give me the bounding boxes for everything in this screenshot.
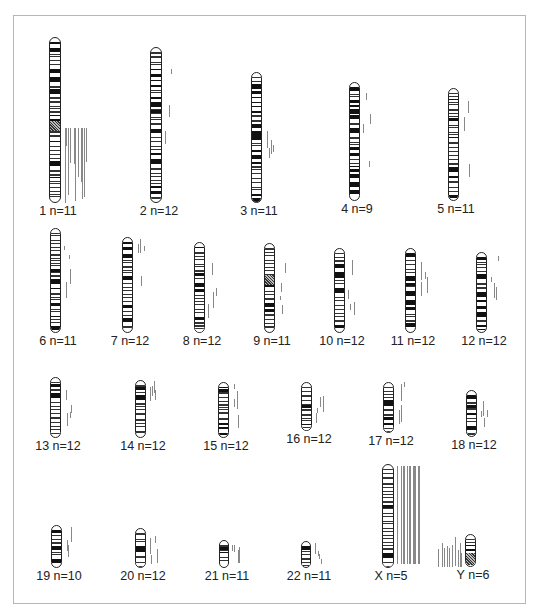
mapping-tick (69, 255, 70, 259)
chromosome-label: 18 n=12 (451, 438, 497, 452)
chromosome-band (335, 288, 344, 293)
chromosome-band (51, 254, 60, 256)
chromosome-band (350, 109, 359, 114)
chromosome-band (383, 469, 393, 474)
mapping-tick (483, 401, 484, 415)
chromosome-band (50, 177, 60, 178)
chromosome-band (123, 305, 132, 308)
chromosome-18 (466, 390, 477, 437)
chromosome-band (384, 387, 393, 392)
mapping-tick (165, 131, 166, 144)
chromosome-band (449, 147, 458, 152)
chromosome-band (195, 256, 204, 260)
chromosome-band (302, 551, 310, 555)
chromosome-band (51, 393, 60, 398)
chromosome-13 (50, 377, 61, 438)
chromosome-band (51, 326, 60, 330)
chromosome-2 (150, 47, 162, 203)
chromosome-band (252, 124, 261, 128)
chromosome-band (406, 291, 415, 296)
mapping-tick (370, 114, 371, 124)
chromosome-band (50, 194, 60, 197)
mapping-tick (415, 466, 416, 564)
chromosome-band (265, 252, 274, 256)
chromosome-band (195, 264, 204, 267)
chromosome-band (50, 77, 60, 82)
chromosome-band (51, 263, 60, 266)
chromosome-band (302, 387, 311, 392)
mapping-tick (407, 466, 408, 564)
chromosome-band (467, 433, 476, 435)
chromosome-band (151, 168, 161, 170)
chromosome-band (50, 42, 60, 44)
chromosome-band (466, 549, 475, 551)
mapping-tick (366, 93, 367, 100)
mapping-tick (319, 554, 320, 559)
chromosome-band (136, 539, 145, 542)
chromosome-band (406, 276, 415, 281)
chromosome-band (50, 97, 60, 99)
mapping-tick (498, 256, 499, 261)
chromosome-band (252, 178, 261, 183)
chromosome-band (51, 288, 60, 289)
chromosome-band (302, 424, 311, 425)
chromosome-label: 15 n=12 (203, 439, 249, 453)
chromosome-band (252, 187, 261, 190)
chromosome-band (219, 418, 228, 420)
chromosome-band (265, 260, 274, 264)
chromosome-label: 11 n=12 (391, 334, 436, 348)
centromere-marker (477, 275, 486, 278)
chromosome-label: 12 n=12 (461, 334, 507, 348)
chromosome-band (195, 317, 204, 320)
chromosome-band (123, 260, 132, 263)
chromosome-band (50, 135, 60, 137)
chromosome-label: 19 n=10 (36, 569, 82, 583)
chromosome-band (51, 309, 60, 312)
chromosome-band (136, 431, 145, 433)
chromosome-band (383, 494, 393, 498)
centromere-marker (466, 553, 475, 565)
chromosome-band (350, 153, 359, 156)
chromosome-band (350, 142, 359, 145)
mapping-tick (237, 391, 238, 409)
mapping-tick (461, 553, 462, 567)
chromosome-band (151, 153, 161, 155)
chromosome-band (252, 150, 261, 152)
mapping-tick (273, 145, 274, 152)
chromosome-label: 10 n=12 (319, 334, 365, 348)
chromosome-band (252, 135, 261, 140)
centromere-marker (51, 269, 60, 272)
chromosome-band (467, 426, 476, 430)
centromere-marker (265, 275, 274, 285)
mapping-tick (144, 246, 145, 251)
mapping-tick (75, 128, 76, 201)
chromosome-band (383, 477, 393, 479)
chromosome-band (123, 242, 132, 244)
chromosome-band (350, 182, 359, 187)
chromosome-band (406, 307, 415, 310)
chromosome-band (50, 174, 60, 176)
chromosome-band (123, 266, 132, 268)
chromosome-band (51, 319, 60, 323)
chromosome-band (335, 325, 344, 328)
mapping-tick (285, 263, 286, 273)
centromere-marker (252, 132, 261, 135)
mapping-tick (70, 269, 71, 285)
chromosome-band (219, 392, 228, 394)
mapping-tick (68, 545, 69, 557)
chromosome-band (50, 101, 60, 103)
chromosome-band (449, 142, 458, 144)
mapping-tick (401, 405, 402, 421)
chromosome-band (123, 254, 132, 258)
chromosome-band (151, 146, 161, 150)
chromosome-band (449, 181, 458, 183)
chromosome-band (123, 326, 132, 328)
mapping-tick (484, 418, 485, 426)
chromosome-band (252, 198, 261, 202)
chromosome-band (50, 86, 60, 88)
chromosome-band (449, 93, 458, 97)
chromosome-label: 13 n=12 (35, 439, 81, 453)
mapping-tick (150, 538, 151, 553)
mapping-tick (86, 128, 87, 162)
chromosome-band (136, 419, 145, 421)
